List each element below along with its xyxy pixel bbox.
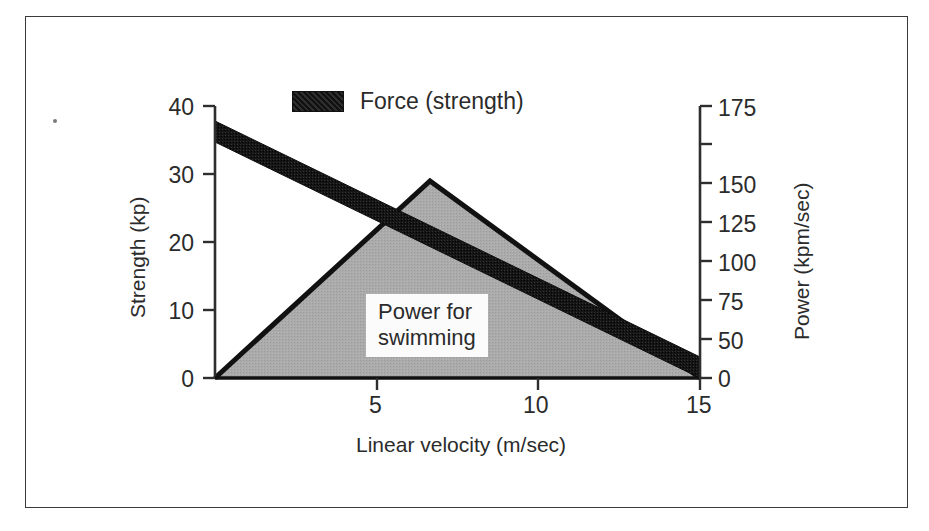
bottom-tick-10: 10 xyxy=(523,392,549,419)
left-tick-10: 10 xyxy=(148,298,194,325)
stray-speck xyxy=(53,119,57,123)
right-tick-0: 0 xyxy=(718,366,731,393)
left-tick-20: 20 xyxy=(148,230,194,257)
right-tick-50: 50 xyxy=(718,328,744,355)
left-tick-30: 30 xyxy=(148,162,194,189)
right-tick-175: 175 xyxy=(718,95,756,122)
annotation-line-1: Power for xyxy=(378,299,476,325)
bottom-tick-15: 15 xyxy=(686,392,712,419)
right-tick-75: 75 xyxy=(718,289,744,316)
right-tick-150: 150 xyxy=(718,172,756,199)
legend-label-force: Force (strength) xyxy=(360,88,524,115)
power-for-swimming-annotation: Power for swimming xyxy=(366,294,488,357)
right-tick-100: 100 xyxy=(718,250,756,277)
annotation-line-2: swimming xyxy=(378,325,476,351)
left-tick-40: 40 xyxy=(148,94,194,121)
force-swatch-icon xyxy=(292,91,344,112)
right-tick-125: 125 xyxy=(718,211,756,238)
bottom-axis-title: Linear velocity (m/sec) xyxy=(356,433,566,457)
left-axis-title: Strength (kp) xyxy=(126,197,150,318)
left-tick-0: 0 xyxy=(148,366,194,393)
right-axis-title: Power (kpm/sec) xyxy=(790,182,814,340)
chart-legend: Force (strength) xyxy=(292,88,524,115)
figure-root: 0 10 20 30 40 Strength (kp) 5 10 15 Line… xyxy=(0,0,929,531)
bottom-tick-5: 5 xyxy=(369,392,382,419)
